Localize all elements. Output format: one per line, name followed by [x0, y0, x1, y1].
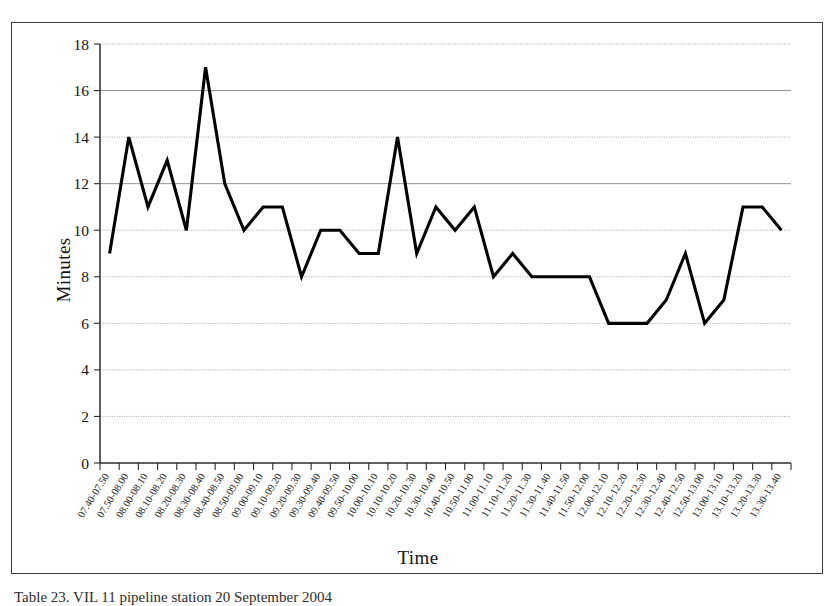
data-series-line	[110, 67, 782, 323]
line-chart-svg: 024681012141618 07.40-07.5007.50-08.0008…	[12, 23, 824, 575]
figure-root: 024681012141618 07.40-07.5007.50-08.0008…	[0, 0, 837, 606]
x-axis-title: Time	[12, 547, 824, 569]
y-tick-label: 0	[81, 455, 89, 472]
y-tick-label: 2	[81, 408, 89, 425]
y-tick-label: 14	[74, 129, 90, 146]
plot-area: 024681012141618 07.40-07.5007.50-08.0008…	[12, 23, 822, 573]
chart-frame: 024681012141618 07.40-07.5007.50-08.0008…	[11, 22, 823, 574]
y-tick-label: 12	[74, 175, 90, 192]
y-tick-group: 024681012141618	[74, 36, 101, 472]
x-tick-label-group: 07.40-07.5007.50-08.0008.00-08.1008.10-0…	[75, 471, 783, 519]
y-tick-label: 8	[81, 268, 89, 285]
x-tick-group	[100, 463, 791, 470]
y-tick-label: 6	[81, 315, 89, 332]
y-tick-label: 16	[74, 82, 90, 99]
axis-lines-group	[100, 44, 791, 463]
gridlines-group	[100, 44, 791, 416]
y-tick-label: 10	[74, 222, 90, 239]
y-tick-label: 18	[74, 36, 90, 53]
y-axis-title: Minutes	[53, 210, 75, 330]
y-tick-label: 4	[81, 361, 89, 378]
figure-caption: Table 23. VIL 11 pipeline station 20 Sep…	[14, 589, 714, 606]
